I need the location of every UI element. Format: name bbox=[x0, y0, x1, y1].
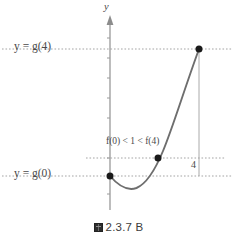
y-axis-arrow-icon bbox=[107, 15, 114, 25]
label-y-equals-g4: y = g(4) bbox=[14, 41, 51, 53]
book-marker-icon bbox=[94, 223, 103, 232]
point-intermediate bbox=[155, 155, 162, 162]
point-g4 bbox=[196, 46, 203, 53]
inequality-annotation: f(0) < 1 < f(4) bbox=[106, 137, 159, 147]
point-g0 bbox=[107, 173, 114, 180]
figure-caption-text: 2.3.7 B bbox=[106, 221, 144, 233]
x-tick-label-4: 4 bbox=[191, 160, 196, 170]
function-curve bbox=[110, 49, 199, 189]
label-y-equals-g0: y = g(0) bbox=[14, 168, 51, 180]
plot-area: y y = g(4) y = g(0) f(0) < 1 < f(4) 4 bbox=[0, 0, 237, 216]
plot-graphic bbox=[0, 0, 237, 216]
figure-caption: 2.3.7 B bbox=[0, 221, 237, 234]
y-axis-label: y bbox=[104, 2, 109, 13]
figure-container: y y = g(4) y = g(0) f(0) < 1 < f(4) 4 2.… bbox=[0, 0, 237, 245]
